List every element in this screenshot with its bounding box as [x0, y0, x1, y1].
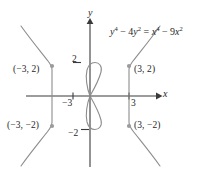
point-neg3-2 [50, 64, 54, 68]
x-tick-label-3: 3 [131, 99, 136, 109]
eq-rhs-exp1: 4 [156, 25, 159, 32]
y-tick-label-negative-2: −2 [68, 129, 78, 139]
x-tick-label-negative-3: −3 [62, 99, 72, 109]
y-axis-label: y [88, 8, 93, 18]
eq-lhs-exp1: 4 [114, 25, 117, 32]
point-label-3-2: (3, 2) [134, 65, 155, 75]
eq-equals: = [144, 26, 150, 37]
point-3-neg2 [127, 124, 131, 128]
eq-minus2: − [162, 26, 168, 37]
point-neg3-neg2 [50, 124, 54, 128]
graph-figure: y x 2 −2 −3 3 (−3, 2) (−3, −2) (3, 2) (3… [0, 0, 215, 173]
point-label-3-neg2: (3, −2) [134, 121, 161, 131]
eq-rhs-exp2: 2 [179, 25, 182, 32]
point-label-neg3-2: (−3, 2) [13, 65, 40, 75]
eq-minus1: − [120, 26, 126, 37]
plot-canvas [0, 0, 215, 173]
eq-lhs-exp2: 2 [138, 25, 141, 32]
point-3-2 [127, 64, 131, 68]
point-label-neg3-neg2: (−3, −2) [7, 121, 39, 131]
x-axis-label: x [163, 89, 168, 99]
x-axis [26, 93, 163, 100]
y-tick-label-2: 2 [72, 55, 77, 65]
equation-annotation: y4−4y2=x4−9x2 [110, 27, 183, 37]
